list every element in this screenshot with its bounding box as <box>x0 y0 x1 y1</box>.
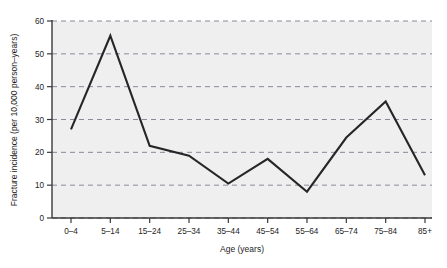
x-axis-tick-label: 55–64 <box>296 227 319 236</box>
x-axis-tick-label: 85+ <box>418 227 432 236</box>
line-chart: 0102030405060 0–45–1415–2425–3435–4445–5… <box>0 0 447 268</box>
x-axis-tick-label: 0–4 <box>64 227 78 236</box>
x-axis-tick-label: 5–14 <box>101 227 120 236</box>
x-axis-ticks-group: 0–45–1415–2425–3435–4445–5455–6465–7475–… <box>64 218 432 236</box>
y-axis-tick-label: 10 <box>35 181 45 190</box>
x-axis-tick-label: 75–84 <box>374 227 397 236</box>
x-axis-tick-label: 15–24 <box>138 227 161 236</box>
chart-figure: 0102030405060 0–45–1415–2425–3435–4445–5… <box>0 0 447 268</box>
y-axis-title: Fracture incidence (per 10,000 person–ye… <box>9 34 19 207</box>
x-axis-tick-label: 35–44 <box>217 227 240 236</box>
y-axis-tick-label: 40 <box>35 83 45 92</box>
y-axis-ticks-group: 0102030405060 <box>35 17 52 223</box>
y-axis-tick-label: 20 <box>35 148 45 157</box>
y-axis-tick-label: 60 <box>35 17 45 26</box>
x-axis-tick-label: 45–54 <box>256 227 279 236</box>
x-axis-title: Age (years) <box>220 244 264 254</box>
y-axis-tick-label: 0 <box>39 214 44 223</box>
y-axis-tick-label: 50 <box>35 50 45 59</box>
x-axis-tick-label: 25–34 <box>178 227 201 236</box>
x-axis-tick-label: 65–74 <box>335 227 358 236</box>
y-axis-tick-label: 30 <box>35 116 45 125</box>
